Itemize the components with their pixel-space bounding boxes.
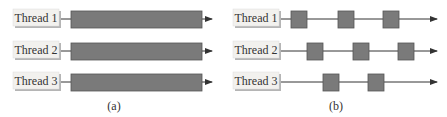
time-slice-block <box>307 43 323 60</box>
execution-bar <box>71 43 202 60</box>
time-slice-block <box>383 11 399 28</box>
time-slice-block <box>291 11 307 28</box>
thread-label: Thread 2 <box>235 43 278 57</box>
panel-b: Thread 1 Thread 2 Thread 3 (b) <box>233 9 437 113</box>
panel-a-thread-2-row: Thread 2 <box>13 41 212 60</box>
panel-b-thread-3-row: Thread 3 <box>233 72 437 91</box>
time-slice-block <box>368 74 384 91</box>
time-slice-block <box>398 43 414 60</box>
panel-b-thread-1-row: Thread 1 <box>233 9 437 28</box>
thread-label: Thread 1 <box>235 11 278 25</box>
thread-label: Thread 2 <box>15 43 58 57</box>
panel-b-caption: (b) <box>329 99 343 113</box>
execution-bar <box>71 11 202 28</box>
panel-a-thread-1-row: Thread 1 <box>13 9 212 28</box>
panel-a-caption: (a) <box>107 99 120 113</box>
time-slice-block <box>323 74 339 91</box>
thread-label: Thread 3 <box>15 74 58 88</box>
time-slice-block <box>353 43 369 60</box>
panel-a: Thread 1 Thread 2 Thread 3 (a) <box>13 9 212 113</box>
thread-label: Thread 3 <box>235 74 278 88</box>
thread-label: Thread 1 <box>15 11 58 25</box>
thread-diagram: Thread 1 Thread 2 Thread 3 (a) Thread 1 <box>0 0 447 117</box>
time-slice-block <box>338 11 354 28</box>
panel-a-thread-3-row: Thread 3 <box>13 72 212 91</box>
panel-b-thread-2-row: Thread 2 <box>233 41 437 60</box>
execution-bar <box>71 74 202 91</box>
